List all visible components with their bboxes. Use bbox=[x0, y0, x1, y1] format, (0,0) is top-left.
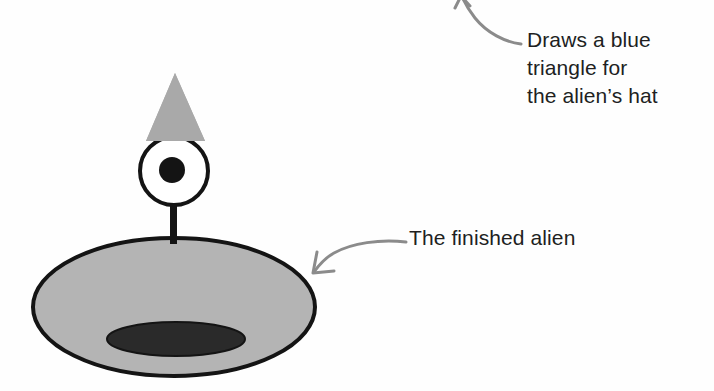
alien-illustration-figure: Draws a blue triangle for the alien’s ha… bbox=[0, 0, 714, 391]
hat-callout-arrow bbox=[455, 0, 521, 44]
alien-body-shadow bbox=[107, 322, 245, 356]
alien-eye-pupil bbox=[159, 157, 185, 183]
alien-callout-arrow bbox=[313, 241, 406, 273]
alien-callout-label: The finished alien bbox=[409, 224, 689, 252]
alien-neck bbox=[170, 206, 177, 244]
hat-callout-label: Draws a blue triangle for the alien’s ha… bbox=[527, 26, 697, 110]
alien-hat-base-overlap bbox=[146, 73, 205, 141]
